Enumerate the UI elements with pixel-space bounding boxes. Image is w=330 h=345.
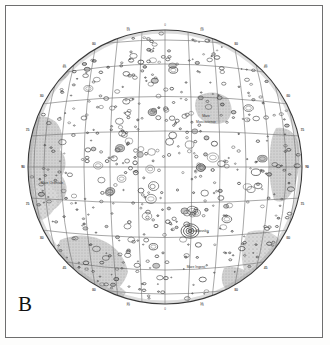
- svg-text:0: 0: [164, 307, 166, 311]
- feature-label: Mare Orientale: [41, 181, 64, 185]
- svg-text:45: 45: [63, 65, 67, 69]
- svg-text:60: 60: [286, 94, 290, 98]
- svg-text:15: 15: [200, 302, 204, 306]
- svg-text:60: 60: [40, 236, 44, 240]
- svg-text:75: 75: [26, 128, 30, 132]
- svg-text:0: 0: [164, 23, 166, 27]
- lunar-hemisphere-map: 7575606045453030151500151530304545606075…: [0, 0, 330, 345]
- svg-text:45: 45: [63, 266, 67, 270]
- svg-text:75: 75: [300, 128, 304, 132]
- svg-text:75: 75: [300, 202, 304, 206]
- svg-text:60: 60: [286, 236, 290, 240]
- svg-text:15: 15: [126, 302, 130, 306]
- feature-label: Mare: [202, 114, 210, 118]
- svg-text:90: 90: [305, 165, 309, 169]
- svg-text:15: 15: [200, 28, 204, 32]
- svg-text:30: 30: [234, 288, 238, 292]
- svg-text:45: 45: [264, 65, 268, 69]
- svg-text:45: 45: [264, 266, 268, 270]
- svg-text:75: 75: [26, 202, 30, 206]
- panel-label: B: [18, 292, 33, 317]
- feature-label: Mare Ingenii: [187, 265, 206, 269]
- svg-text:30: 30: [92, 42, 96, 46]
- svg-text:30: 30: [234, 42, 238, 46]
- svg-text:30: 30: [92, 288, 96, 292]
- svg-text:15: 15: [126, 28, 130, 32]
- figure-plate: 7575606045453030151500151530304545606075…: [0, 0, 330, 345]
- svg-text:60: 60: [40, 94, 44, 98]
- feature-label: Tsiolkovskiy: [191, 229, 209, 233]
- feature-label: Moscoviense: [196, 120, 216, 124]
- svg-text:90: 90: [21, 165, 25, 169]
- lunar-map-svg: 7575606045453030151500151530304545606075…: [0, 0, 330, 345]
